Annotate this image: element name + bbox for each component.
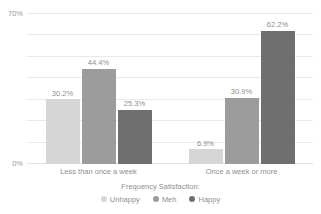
bar-value-label: 62.2%	[267, 21, 288, 29]
plot-area: 0%70% 30.2%44.4%25.3%6.9%30.9%62.2%	[27, 14, 313, 164]
y-axis-tick-label: 0%	[12, 160, 23, 168]
legend-items: UnhappyMehHappy	[0, 196, 321, 204]
bar-chart: 0%70% 30.2%44.4%25.3%6.9%30.9%62.2% Less…	[0, 0, 321, 214]
legend-item-label: Happy	[198, 196, 220, 204]
bar[interactable]: 30.2%	[46, 99, 80, 164]
bar-value-label: 30.9%	[231, 88, 252, 96]
bar-value-label: 30.2%	[52, 90, 73, 98]
legend: Frequency Satisfaction: UnhappyMehHappy	[0, 183, 321, 203]
legend-swatch-icon	[189, 196, 195, 202]
legend-title: Frequency Satisfaction:	[0, 183, 321, 191]
x-axis-category-label: Less than once a week	[60, 168, 137, 176]
bar[interactable]: 44.4%	[82, 69, 116, 164]
bar[interactable]: 25.3%	[118, 110, 152, 164]
legend-item[interactable]: Meh	[153, 196, 177, 204]
legend-item-label: Meh	[162, 196, 177, 204]
legend-item[interactable]: Unhappy	[101, 196, 140, 204]
legend-swatch-icon	[101, 196, 107, 202]
bar-value-label: 44.4%	[88, 59, 109, 67]
bar-value-label: 6.9%	[197, 140, 214, 148]
bar[interactable]: 30.9%	[225, 98, 259, 164]
bar[interactable]: 6.9%	[189, 149, 223, 164]
x-axis-category-label: Once a week or more	[206, 168, 278, 176]
gridline	[27, 13, 313, 14]
bar[interactable]: 62.2%	[261, 31, 295, 164]
legend-item[interactable]: Happy	[189, 196, 220, 204]
bar-value-label: 25.3%	[124, 100, 145, 108]
y-axis-tick-label: 70%	[8, 10, 23, 18]
legend-swatch-icon	[153, 196, 159, 202]
legend-item-label: Unhappy	[110, 196, 140, 204]
